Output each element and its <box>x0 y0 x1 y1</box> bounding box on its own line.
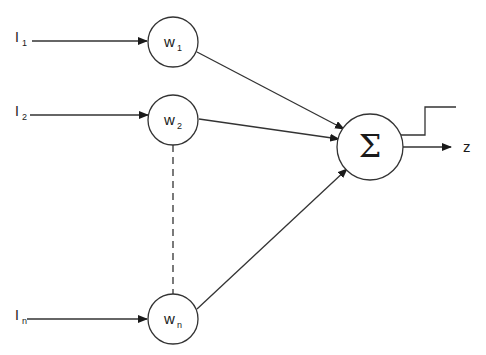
weight-label-subscript: 1 <box>177 43 182 53</box>
weight-label-text: w <box>164 111 175 128</box>
summation-symbol: Σ <box>345 130 395 162</box>
input-label-subscript: 1 <box>22 38 27 48</box>
input-label-text: I <box>15 103 19 119</box>
step-function-icon <box>401 107 456 135</box>
input-label-1: I1 <box>15 30 27 50</box>
input-label-n: In <box>15 308 27 328</box>
wn-to-sum-arrow <box>197 169 347 309</box>
weight-label-subscript: n <box>177 320 182 330</box>
weight-label-text: w <box>164 310 175 327</box>
weight-label-n: wn <box>148 311 198 333</box>
perceptron-diagram: I1 I2 In w1 w2 wn Σ z <box>0 0 486 355</box>
input-label-subscript: 2 <box>22 112 27 122</box>
diagram-graphics <box>0 0 486 355</box>
input-label-subscript: n <box>22 316 27 326</box>
input-label-2: I2 <box>15 104 27 124</box>
w1-to-sum-arrow <box>197 52 344 129</box>
weight-label-2: w2 <box>148 112 198 134</box>
output-label: z <box>463 140 471 154</box>
weight-label-1: w1 <box>148 34 198 56</box>
w2-to-sum-arrow <box>199 119 339 139</box>
input-label-text: I <box>15 29 19 45</box>
weight-label-text: w <box>164 33 175 50</box>
weight-label-subscript: 2 <box>177 121 182 131</box>
input-label-text: I <box>15 307 19 323</box>
